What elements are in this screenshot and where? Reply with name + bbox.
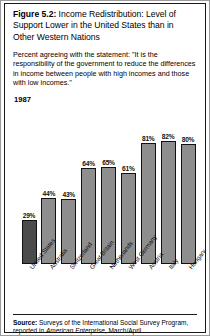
source-note: Source: Surveys of the International Soc… (5, 315, 205, 336)
bar-value-label: 44% (43, 190, 56, 197)
bar-slot: 29% (21, 106, 37, 264)
figure-content: Figure 5.2: Income Redistribution: Level… (5, 4, 205, 332)
bar-slot: 82% (160, 106, 176, 264)
bar-slot: 43% (61, 106, 77, 264)
bar-value-label: 64% (82, 160, 95, 167)
bar (181, 144, 196, 263)
bar-chart: 29%44%43%64%65%61%81%82%80% (5, 106, 205, 264)
bar-value-label: 65% (102, 159, 115, 166)
axis-slot: United States (21, 264, 37, 310)
figure-number-label: Figure 5.2: (13, 9, 56, 19)
source-publication: American Enterprise (46, 327, 105, 334)
bar-slot: 64% (81, 106, 97, 264)
figure-subtitle: Percent agreeing with the statement: "It… (5, 43, 205, 88)
bar-value-label: 61% (122, 165, 135, 172)
figure-container: Figure 5.2: Income Redistribution: Level… (0, 0, 210, 336)
axis-slot: Netherlands (101, 264, 117, 310)
bar-value-label: 29% (23, 212, 36, 219)
axis-slot: Austria (140, 264, 156, 310)
axis-slot: West Germany (120, 264, 136, 310)
bar-value-label: 43% (62, 191, 75, 198)
bar-slot: 80% (180, 106, 196, 264)
source-text-after: , March/April (105, 327, 141, 334)
source-label: Source: (13, 319, 37, 326)
axis-slot: Australia (41, 264, 57, 310)
year-label: 1987 (5, 88, 205, 104)
axis-slot: Italy (160, 264, 176, 310)
axis-slot: Great Britain (81, 264, 97, 310)
axis-slot: Hungary (180, 264, 196, 310)
bar-value-label: 81% (142, 135, 155, 142)
bar-value-label: 82% (162, 133, 175, 140)
bar (161, 141, 176, 263)
figure-title: Figure 5.2: Income Redistribution: Level… (5, 4, 205, 43)
x-axis-labels: United StatesAustraliaSwitzerlandGreat B… (5, 264, 205, 310)
bar-value-label: 80% (182, 136, 195, 143)
axis-slot: Switzerland (61, 264, 77, 310)
